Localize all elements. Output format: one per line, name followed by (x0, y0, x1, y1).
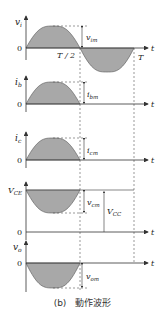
svg-text:t: t (151, 228, 155, 237)
svg-text:VCC: VCC (107, 207, 122, 217)
svg-text:vo: vo (13, 242, 22, 253)
panel-vce: VCE 0 vcm VCC t (8, 182, 155, 240)
svg-text:ibm: ibm (87, 90, 98, 100)
svg-text:T: T (138, 53, 144, 62)
svg-text:VCE: VCE (8, 186, 22, 196)
svg-text:0: 0 (17, 156, 22, 165)
svg-text:t: t (151, 44, 155, 53)
svg-text:vi: vi (15, 17, 22, 28)
vi-negative-fill (80, 48, 134, 72)
svg-text:icm: icm (87, 146, 98, 156)
svg-text:t: t (151, 259, 155, 268)
svg-text:vom: vom (86, 272, 99, 282)
svg-text:vcm: vcm (87, 198, 100, 208)
svg-text:0: 0 (17, 228, 22, 237)
panel-vi: vi 0 vim T / 2 T t (15, 16, 155, 72)
svg-text:t: t (151, 100, 155, 109)
svg-text:t: t (151, 156, 155, 165)
waveform-diagram: vi 0 vim T / 2 T t ib 0 ibm t ic 0 icm t (0, 0, 165, 314)
svg-text:vim: vim (86, 33, 98, 43)
svg-text:0: 0 (17, 100, 22, 109)
vi-positive-fill (26, 26, 80, 48)
svg-text:ic: ic (15, 133, 22, 144)
svg-text:0: 0 (17, 44, 22, 53)
figure-caption: (b) 動作波形 (0, 296, 165, 309)
svg-text:ib: ib (15, 77, 22, 88)
svg-text:0: 0 (17, 259, 22, 268)
svg-text:T / 2: T / 2 (57, 51, 75, 60)
